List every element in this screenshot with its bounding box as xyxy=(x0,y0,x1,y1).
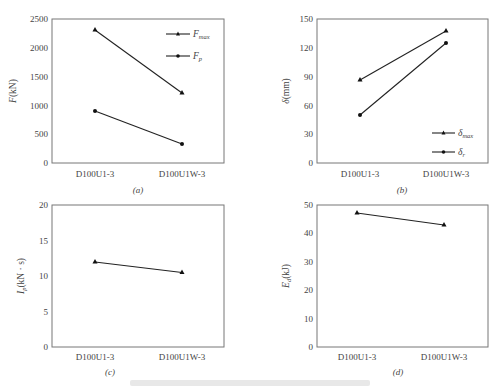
x-tick-label: D100U1W-3 xyxy=(421,352,468,362)
ytick: 50 xyxy=(304,200,314,210)
figure-caption-faded xyxy=(130,380,370,386)
x-tick-label: D100U1-3 xyxy=(341,169,380,179)
series-fmax xyxy=(93,27,185,95)
circle-marker-icon xyxy=(176,54,180,58)
legend-label-fp: Fp xyxy=(192,51,203,62)
series-delta-r xyxy=(358,41,448,117)
legend-b: δmax δr xyxy=(432,128,473,158)
plot-frame-b xyxy=(317,19,488,163)
panel-label-d: (d) xyxy=(393,367,404,377)
ytick: 20 xyxy=(304,285,314,295)
panel-label-c: (c) xyxy=(105,367,115,377)
x-tick-label: D100U1-3 xyxy=(338,352,377,362)
triangle-marker-icon xyxy=(444,28,449,33)
ytick: 90 xyxy=(304,72,314,82)
series-fp xyxy=(93,109,184,146)
triangle-marker-icon xyxy=(93,259,98,264)
x-tick-label: D100U1-3 xyxy=(76,169,115,179)
circle-marker-icon xyxy=(444,41,448,45)
ytick: 0 xyxy=(44,158,49,168)
ytick: 10 xyxy=(39,271,49,281)
plot-frame-c xyxy=(52,205,224,347)
triangle-marker-icon xyxy=(355,210,360,215)
ytick: 120 xyxy=(300,43,314,53)
ytick: 30 xyxy=(304,257,314,267)
ytick: 40 xyxy=(304,228,314,238)
x-tick-label: D100U1W-3 xyxy=(159,169,206,179)
circle-marker-icon xyxy=(442,150,446,154)
y-axis-label-d: Ed(kJ) xyxy=(281,264,292,289)
y-axis-label-b: δ(mm) xyxy=(281,78,292,104)
y-axis-label-a: F(kN) xyxy=(8,79,19,104)
ytick: 15 xyxy=(39,236,49,246)
ytick: 0 xyxy=(309,342,314,352)
ytick: 1500 xyxy=(30,72,49,82)
legend-label-delta-max: δmax xyxy=(458,128,473,139)
chart-b: 150 120 90 60 30 0 δ(mm) D100U1-3 D100U1… xyxy=(281,14,488,195)
circle-marker-icon xyxy=(180,142,184,146)
y-ticks-a: 2500 2000 1500 1000 500 0 xyxy=(30,14,49,168)
series-ed xyxy=(355,210,447,227)
ytick: 2500 xyxy=(30,14,49,24)
y-ticks-c: 20 15 10 5 0 xyxy=(39,200,49,352)
plot-frame-d xyxy=(317,205,488,347)
legend-label-fmax: Fmax xyxy=(192,29,210,40)
ytick: 500 xyxy=(35,129,49,139)
ytick: 150 xyxy=(300,14,314,24)
ytick: 0 xyxy=(44,342,49,352)
panel-label-a: (a) xyxy=(133,185,144,195)
legend-label-delta-r: δr xyxy=(458,147,465,158)
y-axis-label-c: Ip(kN · s) xyxy=(16,258,27,295)
chart-d: 50 40 30 20 10 0 Ed(kJ) D100U1-3 D100U1W… xyxy=(281,200,488,377)
circle-marker-icon xyxy=(358,113,362,117)
series-delta-max xyxy=(358,28,449,82)
ytick: 30 xyxy=(304,129,314,139)
ytick: 10 xyxy=(304,314,314,324)
x-tick-label: D100U1-3 xyxy=(76,352,115,362)
ytick: 20 xyxy=(39,200,49,210)
triangle-marker-icon xyxy=(93,27,98,32)
ytick: 2000 xyxy=(30,43,49,53)
circle-marker-icon xyxy=(93,109,97,113)
series-ip xyxy=(93,259,185,274)
y-ticks-d: 50 40 30 20 10 0 xyxy=(304,200,314,352)
ytick: 5 xyxy=(44,307,49,317)
figure-canvas: 2500 2000 1500 1000 500 0 F(kN) D100U1-3… xyxy=(0,0,496,389)
chart-c: 20 15 10 5 0 Ip(kN · s) D100U1-3 D100U1W… xyxy=(16,200,224,377)
ytick: 1000 xyxy=(30,101,49,111)
x-tick-label: D100U1W-3 xyxy=(159,352,206,362)
x-tick-label: D100U1W-3 xyxy=(423,169,470,179)
plot-frame-a xyxy=(52,19,224,163)
legend-a: Fmax Fp xyxy=(166,29,210,62)
ytick: 0 xyxy=(309,158,314,168)
chart-a: 2500 2000 1500 1000 500 0 F(kN) D100U1-3… xyxy=(8,14,224,195)
panel-label-b: (b) xyxy=(397,185,408,195)
ytick: 60 xyxy=(304,101,314,111)
y-ticks-b: 150 120 90 60 30 0 xyxy=(300,14,314,168)
